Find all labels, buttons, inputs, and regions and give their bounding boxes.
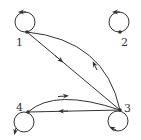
node-3-dot xyxy=(118,108,122,112)
self-loop-1 xyxy=(15,12,35,32)
node-label-1: 1 xyxy=(16,37,23,48)
node-label-4: 4 xyxy=(16,102,23,113)
edge-1-to-3 xyxy=(27,32,120,110)
node-2-dot xyxy=(118,30,122,34)
self-loop-4 xyxy=(14,112,34,132)
edge-3-to-4 xyxy=(28,110,120,112)
node-4-dot xyxy=(26,110,30,114)
graph-canvas xyxy=(0,0,141,140)
node-label-3: 3 xyxy=(124,103,131,114)
node-label-2: 2 xyxy=(121,37,128,48)
self-loop-2 xyxy=(109,12,129,32)
node-1-dot xyxy=(25,30,29,34)
